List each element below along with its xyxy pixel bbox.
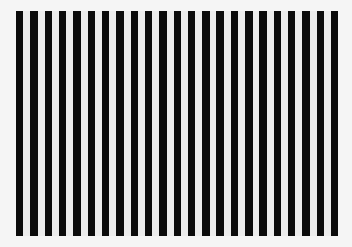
black-stripe — [188, 11, 195, 236]
black-stripe — [245, 11, 252, 236]
stripe-pattern-image — [0, 0, 352, 247]
black-stripe — [202, 11, 209, 236]
black-stripe — [88, 11, 95, 236]
black-stripe — [274, 11, 281, 236]
black-stripe — [259, 11, 266, 236]
black-stripe — [16, 11, 23, 236]
black-stripe — [302, 11, 309, 236]
black-stripe — [59, 11, 66, 236]
black-stripe — [159, 11, 166, 236]
black-stripe — [288, 11, 295, 236]
black-stripe — [73, 11, 80, 236]
black-stripe — [216, 11, 223, 236]
black-stripe — [231, 11, 238, 236]
black-stripe — [174, 11, 181, 236]
black-stripe — [145, 11, 152, 236]
black-stripe — [317, 11, 324, 236]
black-stripe — [331, 11, 338, 236]
black-stripe — [102, 11, 109, 236]
black-stripe — [131, 11, 138, 236]
black-stripe — [116, 11, 123, 236]
black-stripe — [30, 11, 37, 236]
grating-area — [16, 11, 338, 236]
black-stripe — [45, 11, 52, 236]
